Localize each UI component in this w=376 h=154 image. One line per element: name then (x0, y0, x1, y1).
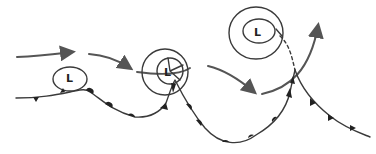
flow-arrow-5 (262, 26, 318, 94)
low-3-hook (276, 29, 282, 36)
low-3-label: L (254, 26, 261, 39)
main-front-line (16, 70, 295, 143)
front-semicircle (105, 102, 113, 108)
low-1-label: L (66, 72, 73, 85)
front-semicircle (186, 104, 192, 110)
low-2-label: L (164, 66, 171, 79)
flow-arrow-4 (208, 66, 254, 92)
weather-diagram: L L L (0, 0, 376, 154)
flow-arrow-2 (89, 54, 130, 68)
front-sequence-svg: L L L (0, 0, 376, 154)
flow-arrow-1 (17, 52, 72, 57)
cold-front-trailing (295, 70, 370, 137)
front-semicircle (196, 120, 202, 126)
front-triangle (33, 97, 39, 102)
front-triangle (328, 114, 334, 121)
